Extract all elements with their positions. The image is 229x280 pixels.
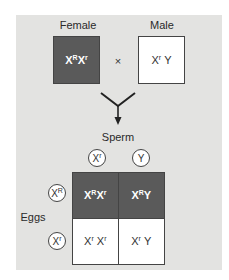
offspring-cell: Xr Y xyxy=(119,219,165,265)
eggs-label: Eggs xyxy=(20,211,45,223)
sperm-label: Sperm xyxy=(102,131,134,143)
sperm-allele-xr: Xr xyxy=(88,149,106,167)
offspring-cell: Xr Xr xyxy=(73,219,119,265)
offspring-cell: XRY xyxy=(119,173,165,219)
egg-allele-xR: XR xyxy=(48,184,66,202)
punnett-square: XRXr XRY Xr Xr Xr Y xyxy=(72,172,165,265)
offspring-cell: XRXr xyxy=(73,173,119,219)
sperm-allele-y: Y xyxy=(132,149,150,167)
egg-allele-xr: Xr xyxy=(48,232,66,250)
